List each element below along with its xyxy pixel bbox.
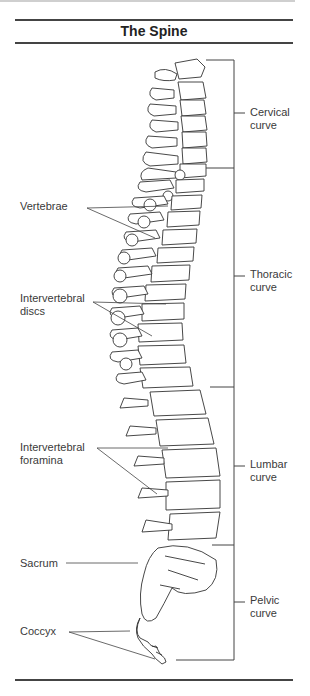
spine-diagram bbox=[0, 0, 310, 696]
label-foramina-line1: Intervertebral bbox=[20, 441, 85, 454]
label-thoracic-line2: curve bbox=[250, 281, 277, 294]
label-sacrum: Sacrum bbox=[20, 557, 58, 570]
label-discs-line1: Intervertebral bbox=[20, 292, 85, 305]
label-lumbar-line2: curve bbox=[250, 471, 277, 484]
spine-drawing bbox=[110, 59, 220, 664]
label-foramina-line2: foramina bbox=[20, 454, 63, 467]
label-vertebrae: Vertebrae bbox=[20, 200, 68, 213]
label-coccyx: Coccyx bbox=[20, 625, 56, 638]
bottom-rule bbox=[15, 679, 293, 681]
label-cervical-line2: curve bbox=[250, 119, 277, 132]
label-pelvic-line1: Pelvic bbox=[250, 594, 279, 607]
label-pelvic-line2: curve bbox=[250, 607, 277, 620]
label-lumbar-line1: Lumbar bbox=[250, 458, 287, 471]
label-discs-line2: discs bbox=[20, 305, 45, 318]
label-cervical-line1: Cervical bbox=[250, 106, 290, 119]
label-thoracic-line1: Thoracic bbox=[250, 268, 292, 281]
